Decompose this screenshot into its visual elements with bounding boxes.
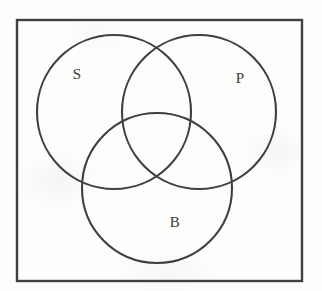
set-label-p: P — [236, 71, 245, 86]
universal-set-rectangle — [17, 20, 302, 281]
circle-p — [122, 35, 276, 189]
venn-diagram-canvas — [0, 0, 322, 291]
set-label-s: S — [73, 67, 82, 82]
set-label-b: B — [170, 215, 180, 230]
venn-diagram-figure: S P B — [0, 0, 322, 291]
circle-s — [37, 35, 191, 189]
